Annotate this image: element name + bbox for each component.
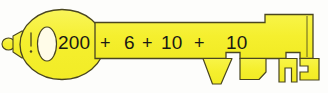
key-shank — [95, 15, 313, 59]
key-drawing — [0, 0, 328, 93]
tooth-tip — [300, 59, 319, 81]
tooth-block — [240, 59, 266, 80]
key-illustration-scene: 200 + 6 + 10 + 10 — [0, 0, 328, 93]
key-bow-hole — [38, 27, 57, 61]
tooth-notched — [279, 59, 297, 83]
bow-tick-dot — [30, 50, 32, 52]
tooth-triangle — [203, 59, 232, 85]
key-bow — [20, 10, 104, 80]
